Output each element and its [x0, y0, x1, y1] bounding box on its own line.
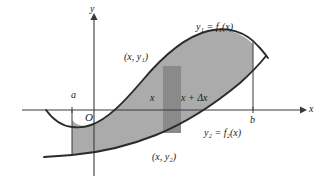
- origin-label: O: [85, 112, 93, 123]
- figure-container: y x a b O y₁ = f₁(x) y₂ = f₂(x) (x, y₁) …: [0, 0, 321, 176]
- lower-curve-label: y₂ = f₂(x): [204, 128, 241, 138]
- strip-left-label: x: [150, 93, 154, 103]
- right-bound-label-b: b: [250, 115, 255, 125]
- x-axis-label: x: [309, 104, 313, 114]
- figure-canvas: [0, 0, 321, 176]
- upper-curve-label: y₁ = f₁(x): [196, 22, 233, 32]
- upper-point-label: (x, y₁): [124, 52, 148, 62]
- lower-point-label: (x, y₂): [152, 152, 176, 162]
- left-bound-label-a: a: [71, 90, 76, 100]
- strip-right-label: x + Δx: [181, 93, 208, 103]
- representative-rectangle: [163, 66, 181, 133]
- y-axis-label: y: [90, 4, 94, 14]
